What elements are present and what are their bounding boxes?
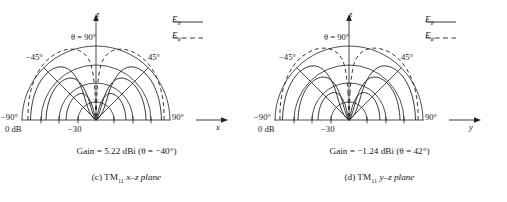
radiation-pattern-figure: Eθ Eϕ z x θ = 90° −45° 45° −90° 90° 0 dB… [0,0,507,202]
neg45-label-d: −45° [279,52,296,62]
pos45-label-c: 45° [148,52,160,62]
y-axis-arrow-d [449,117,481,123]
inner-ring-label-c: −30 [68,124,81,134]
radial-line-neg45-d [297,68,349,120]
outer-ring-label-c: 0 dB [5,124,21,134]
panel-c-xz-plane: Eθ Eϕ z x θ = 90° −45° 45° −90° 90° 0 dB… [0,0,253,202]
pos45-label-d: 45° [401,52,413,62]
radial-line-pos45-d [349,68,401,120]
outer-ring-label-d: 0 dB [258,124,274,134]
e-theta-inner-left-c [46,78,96,120]
e-theta-inner-right-c [96,78,146,120]
legend-label-e-theta-c: Eθ [172,14,181,26]
neg90-label-d: −90° [254,112,271,122]
x-axis-label-c: x [216,122,220,132]
subfigure-caption-d: (d) TM11 y–z plane [253,172,506,184]
neg45-label-c: −45° [26,52,43,62]
pos90-label-d: 90° [425,112,437,122]
z-axis-label-c: z [96,9,99,19]
theta-top-label-c: θ = 90° [71,32,96,42]
neg90-label-c: −90° [1,112,18,122]
y-axis-label-d: y [469,122,473,132]
panel-d-yz-plane: Eθ Eϕ z y θ = 90° −45° 45° −90° 90° 0 dB… [253,0,506,202]
x-axis-arrow-c [196,117,228,123]
legend-label-e-phi-c: Eϕ [172,30,181,42]
pos90-label-c: 90° [172,112,184,122]
legend-label-e-theta-d: Eθ [425,14,434,26]
legend-label-e-phi-d: Eϕ [425,30,434,42]
theta-top-label-d: θ = 90° [324,32,349,42]
gain-caption-d: Gain = −1.24 dBi (θ = 42°) [253,146,506,156]
gain-caption-c: Gain = 5.22 dBi (θ = −40°) [0,146,253,156]
z-axis-label-d: z [349,9,352,19]
subfigure-caption-c: (c) TM11 x–z plane [0,172,253,184]
inner-ring-label-d: −30 [321,124,334,134]
